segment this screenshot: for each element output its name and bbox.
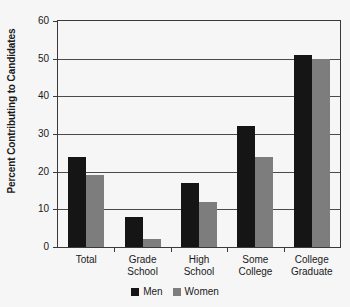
y-tick-label: 30 [25,129,49,139]
y-tick-label: 40 [25,91,49,101]
y-tick-mark [53,134,58,135]
bar-men-high-school [181,183,199,247]
x-category-label-some-college: Some College [227,254,283,278]
x-category-label-grade-school: Grade School [114,254,170,278]
x-category-label-high-school: High School [171,254,227,278]
bar-men-some-college [237,126,255,247]
bar-women-college-graduate [312,59,330,247]
y-tick-label: 10 [25,204,49,214]
x-tick-mark [284,247,285,252]
y-tick-mark [53,172,58,173]
bar-chart: Percent Contributing to Candidates 01020… [0,0,350,307]
bar-men-college-graduate [294,55,312,247]
bar-women-grade-school [143,239,161,247]
chart-legend: Men Women [0,287,350,297]
bar-women-total [86,175,104,247]
bar-women-some-college [255,157,273,247]
x-tick-mark [171,247,172,252]
y-tick-mark [53,209,58,210]
y-tick-mark [53,96,58,97]
legend-label-men: Men [143,287,162,297]
bar-men-grade-school [125,217,143,247]
y-tick-label: 60 [25,16,49,26]
y-tick-mark [53,247,58,248]
x-category-label-college-graduate: College Graduate [284,254,340,278]
plot-area [57,20,341,248]
x-tick-mark [114,247,115,252]
legend-swatch-men-icon [131,288,139,296]
x-tick-mark [227,247,228,252]
y-tick-mark [53,59,58,60]
legend-item-men: Men [131,287,162,297]
bar-men-total [68,157,86,247]
legend-item-women: Women [173,287,219,297]
x-category-label-total: Total [58,254,114,266]
legend-label-women: Women [185,287,219,297]
y-tick-label: 50 [25,54,49,64]
bar-women-high-school [199,202,217,247]
legend-swatch-women-icon [173,288,181,296]
y-tick-label: 20 [25,167,49,177]
y-tick-label: 0 [25,242,49,252]
y-axis-title: Percent Contributing to Candidates [4,0,20,236]
y-tick-mark [53,21,58,22]
